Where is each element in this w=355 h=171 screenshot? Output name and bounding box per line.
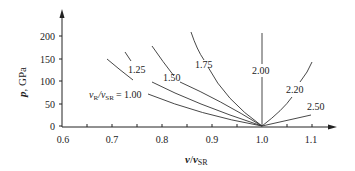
label-2.20: 2.20 (286, 84, 304, 95)
x-tick-0.7: 0.7 (106, 134, 119, 145)
y-axis-title: p, GPa (16, 67, 28, 98)
svg-text:p, GPa: p, GPa (16, 67, 28, 98)
y-tick-0: 0 (50, 121, 55, 132)
label-2.50: 2.50 (307, 101, 325, 112)
y-tick-50: 50 (45, 99, 55, 110)
y-tick-200: 200 (40, 31, 55, 42)
x-tick-labels: 0.6 0.7 0.8 0.9 1.0 1.1 (57, 134, 318, 145)
curve-labels: vR/vSR= 1.00 1.25 1.50 1.75 2.00 2.20 2.… (89, 59, 325, 112)
svg-text:v/vSR: v/vSR (185, 153, 208, 167)
label-1.00: vR/vSR= 1.00 (89, 89, 142, 102)
y-tick-labels: 200 150 100 50 0 (40, 31, 55, 132)
label-1.75: 1.75 (195, 59, 213, 70)
plot-area: 200 150 100 50 0 0.6 0.7 0.8 0.9 1.0 1.1… (0, 0, 355, 171)
y-tick-100: 100 (40, 76, 55, 87)
x-tick-0.9: 0.9 (206, 134, 219, 145)
x-tick-0.8: 0.8 (156, 134, 169, 145)
x-axis-title: v/vSR (185, 153, 208, 167)
label-1.25: 1.25 (128, 64, 146, 75)
x-tick-0.6: 0.6 (57, 134, 70, 145)
x-tick-1.0: 1.0 (256, 134, 269, 145)
y-tick-150: 150 (40, 54, 55, 65)
x-axis-arrow-icon (328, 125, 337, 130)
label-1.50: 1.50 (163, 72, 181, 83)
label-2.00: 2.00 (252, 65, 270, 76)
curve-1.25 (125, 52, 262, 126)
x-tick-1.1: 1.1 (305, 134, 318, 145)
y-axis-arrow-icon (60, 9, 65, 18)
chart: 200 150 100 50 0 0.6 0.7 0.8 0.9 1.0 1.1… (0, 0, 355, 171)
